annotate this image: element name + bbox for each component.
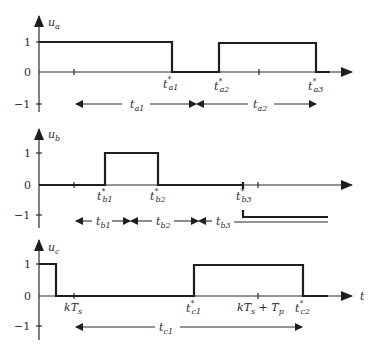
uc-event-tc2: t*c2	[295, 299, 310, 316]
ub-waveform	[39, 153, 243, 185]
ub-ytick-neg1: −1	[14, 209, 30, 222]
switching-waveform-diagram: ua 1 0 −1 t*a1 t*a2 t*a3 ta1 ta2 ub 1 0 …	[0, 0, 382, 354]
panel-ua: ua 1 0 −1 t*a1 t*a2 t*a3 ta1 ta2	[14, 16, 352, 113]
ub-event-tb2: t*b2	[150, 187, 166, 204]
uc-interval-tc1-label: tc1	[159, 321, 173, 336]
ub-waveform-continuation	[243, 210, 328, 217]
uc-mark-kts: kTs	[64, 301, 82, 316]
uc-ytick-neg1: −1	[14, 320, 30, 333]
uc-mark-kts-tp: kTs + Tp	[237, 301, 284, 316]
uc-x-axis-label: t	[360, 290, 365, 303]
panel-ub: ub 1 0 −1 t*b1 t*b2 t*b3 tb1 tb2 tb3	[14, 128, 352, 230]
ub-interval-tb2-label: tb2	[156, 215, 171, 230]
ua-event-ta1: t*a1	[163, 75, 178, 92]
panel-uc: t uc 1 0 −1 kTs kTs + Tp t*c1 t*c2 tc1	[14, 240, 365, 340]
ua-waveform	[39, 42, 330, 72]
ub-ytick-1: 1	[24, 147, 31, 160]
ua-ytick-0: 0	[24, 66, 31, 79]
uc-event-tc1: t*c1	[186, 299, 201, 316]
uc-axis-label: uc	[48, 241, 60, 256]
ua-ytick-neg1: −1	[14, 98, 30, 111]
ub-interval-tb1-label: tb1	[96, 215, 111, 230]
ua-axis-label: ua	[48, 16, 60, 31]
ua-interval-ta2-label: ta2	[253, 98, 267, 113]
ua-ytick-1: 1	[24, 36, 31, 49]
ua-event-ta3: t*a3	[308, 77, 323, 94]
ub-event-tb1: t*b1	[97, 187, 113, 204]
ub-event-tb3: t*b3	[236, 187, 252, 204]
ub-axis-label: ub	[48, 128, 60, 143]
ub-ytick-0: 0	[24, 179, 31, 192]
uc-waveform	[39, 264, 328, 296]
ua-interval-ta1-label: ta1	[130, 98, 144, 113]
uc-ytick-0: 0	[24, 290, 31, 303]
ua-event-ta2: t*a2	[214, 77, 229, 94]
ub-interval-tb3-label: tb3	[216, 215, 231, 230]
uc-ytick-1: 1	[24, 258, 31, 271]
